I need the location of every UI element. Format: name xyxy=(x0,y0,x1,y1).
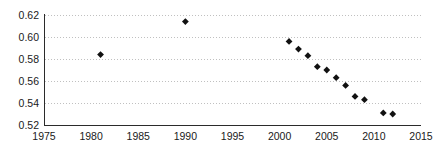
data-point xyxy=(333,74,340,81)
data-points xyxy=(97,18,396,117)
axis-lines xyxy=(45,14,422,126)
scatter-chart: 0.520.540.560.580.600.62 197519801985199… xyxy=(0,0,437,152)
x-tick-label: 2015 xyxy=(409,130,433,142)
x-tick-label: 2000 xyxy=(268,130,292,142)
data-point xyxy=(352,93,359,100)
x-tick-label: 1980 xyxy=(79,130,103,142)
y-tick-label: 0.54 xyxy=(19,97,40,109)
data-point xyxy=(305,52,312,59)
data-point xyxy=(389,111,396,118)
data-point xyxy=(97,51,104,58)
y-tick-label: 0.60 xyxy=(19,31,40,43)
data-point xyxy=(286,38,293,45)
data-point xyxy=(361,96,368,103)
x-tick-label: 1990 xyxy=(174,130,198,142)
gridlines xyxy=(45,16,421,126)
x-tick-label: 2010 xyxy=(362,130,386,142)
data-point xyxy=(295,46,302,53)
y-tick-labels: 0.520.540.560.580.600.62 xyxy=(19,9,40,131)
data-point xyxy=(323,67,330,74)
data-point xyxy=(314,63,321,70)
y-tick-label: 0.58 xyxy=(19,53,40,65)
data-point xyxy=(380,110,387,117)
plot-area: 0.520.540.560.580.600.62 197519801985199… xyxy=(0,0,437,152)
x-tick-labels: 197519801985199019952000200520102015 xyxy=(32,130,433,142)
data-point xyxy=(342,82,349,89)
x-tick-label: 1995 xyxy=(221,130,245,142)
y-tick-label: 0.56 xyxy=(19,75,40,87)
data-point xyxy=(182,18,189,25)
x-tick-label: 1975 xyxy=(32,130,56,142)
y-tick-label: 0.62 xyxy=(19,9,40,21)
x-tick-label: 1985 xyxy=(127,130,151,142)
x-tick-label: 2005 xyxy=(315,130,339,142)
